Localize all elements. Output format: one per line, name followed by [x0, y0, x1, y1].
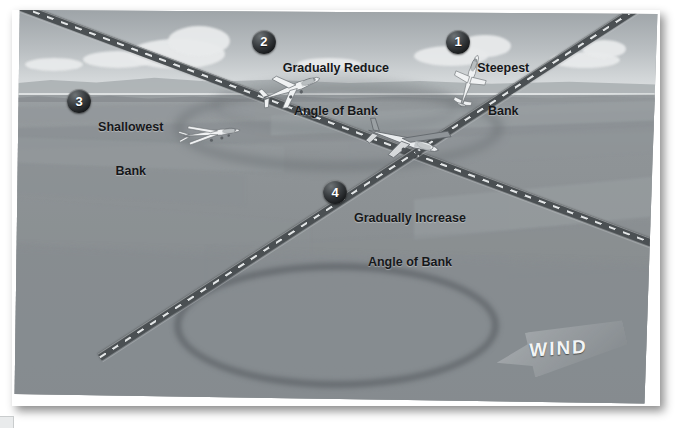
- callout-badge-3: 3: [67, 89, 91, 113]
- callout-text-2: Gradually Reduce Angle of Bank: [283, 30, 389, 148]
- cloud-icon: [168, 26, 230, 56]
- callout-line-2: Bank: [477, 104, 529, 119]
- callout-line-2: Angle of Bank: [283, 104, 389, 119]
- callout-1: 1 Steepest Bank: [446, 30, 529, 148]
- cloud-icon: [25, 58, 83, 71]
- wind-label: WIND: [529, 335, 588, 361]
- callout-3: 3 Shallowest Bank: [67, 89, 163, 207]
- callout-line-1: Gradually Increase: [354, 211, 466, 226]
- callout-text-4: Gradually Increase Angle of Bank: [354, 180, 466, 298]
- callout-line-2: Bank: [98, 164, 163, 179]
- callout-badge-1: 1: [446, 30, 470, 54]
- callout-badge-4: 4: [323, 180, 347, 204]
- callout-text-3: Shallowest Bank: [98, 89, 163, 207]
- callout-line-2: Angle of Bank: [354, 255, 466, 270]
- callout-line-1: Gradually Reduce: [283, 61, 389, 76]
- illustration-plate: WIND: [12, 10, 660, 406]
- callout-badge-2: 2: [252, 30, 276, 54]
- callout-text-1: Steepest Bank: [477, 30, 529, 148]
- callout-line-1: Steepest: [477, 61, 529, 76]
- page-corner-mark: [0, 416, 14, 428]
- callout-4: 4 Gradually Increase Angle of Bank: [323, 180, 466, 298]
- callout-2: 2 Gradually Reduce Angle of Bank: [252, 30, 389, 148]
- illustration-stage: WIND: [0, 0, 685, 428]
- framed-illustration: WIND: [12, 10, 660, 406]
- callout-line-1: Shallowest: [98, 120, 163, 135]
